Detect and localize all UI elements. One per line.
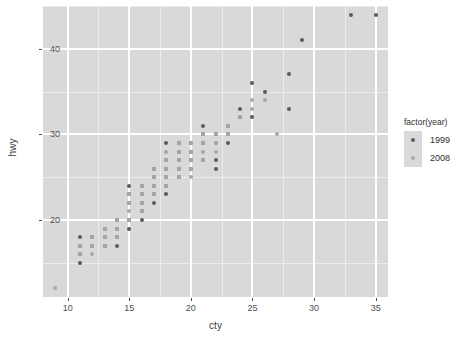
legend: factor(year) 19992008 bbox=[404, 117, 468, 167]
data-point bbox=[250, 98, 254, 102]
data-point bbox=[250, 81, 254, 85]
data-point bbox=[115, 244, 119, 248]
y-axis-title: hwy bbox=[7, 118, 18, 178]
data-point bbox=[78, 244, 82, 248]
data-point bbox=[152, 184, 156, 188]
data-point bbox=[214, 141, 218, 145]
data-point bbox=[214, 158, 218, 162]
data-point bbox=[103, 244, 107, 248]
data-point bbox=[152, 201, 156, 205]
data-point bbox=[201, 150, 205, 154]
data-point bbox=[115, 235, 119, 239]
data-point bbox=[140, 192, 144, 196]
scatter-plot-figure: cty hwy factor(year) 19992008 1015202530… bbox=[0, 0, 468, 351]
legend-item[interactable]: 1999 bbox=[404, 131, 468, 149]
y-tick-mark bbox=[39, 134, 42, 135]
data-point bbox=[152, 192, 156, 196]
legend-point-icon bbox=[411, 138, 415, 142]
data-point bbox=[263, 98, 267, 102]
x-tick-mark bbox=[376, 298, 377, 301]
x-tick-mark bbox=[191, 298, 192, 301]
data-point bbox=[226, 141, 230, 145]
legend-item-label: 1999 bbox=[430, 135, 450, 145]
x-tick-label: 20 bbox=[186, 303, 196, 313]
data-point bbox=[103, 235, 107, 239]
x-tick-label: 25 bbox=[247, 303, 257, 313]
data-point bbox=[164, 158, 168, 162]
data-point bbox=[164, 167, 168, 171]
data-point bbox=[189, 150, 193, 154]
x-tick-label: 35 bbox=[371, 303, 381, 313]
data-point bbox=[287, 107, 291, 111]
gridline-y-major bbox=[43, 219, 388, 221]
data-point bbox=[214, 132, 218, 136]
data-point bbox=[189, 141, 193, 145]
data-point bbox=[263, 90, 267, 94]
legend-title: factor(year) bbox=[404, 117, 468, 127]
data-point bbox=[226, 124, 230, 128]
data-point bbox=[189, 175, 193, 179]
data-point bbox=[78, 261, 82, 265]
data-point bbox=[140, 218, 144, 222]
data-point bbox=[90, 244, 94, 248]
legend-point-icon bbox=[411, 156, 415, 160]
data-point bbox=[201, 132, 205, 136]
gridline-y-minor bbox=[43, 263, 388, 264]
data-point bbox=[127, 218, 131, 222]
y-tick-label: 30 bbox=[50, 129, 60, 139]
y-tick-label: 20 bbox=[50, 215, 60, 225]
data-point bbox=[127, 192, 131, 196]
y-tick-label: 40 bbox=[50, 44, 60, 54]
data-point bbox=[164, 175, 168, 179]
x-tick-label: 30 bbox=[309, 303, 319, 313]
data-point bbox=[300, 38, 304, 42]
data-point bbox=[201, 141, 205, 145]
legend-key-swatch bbox=[404, 149, 422, 167]
data-point bbox=[177, 150, 181, 154]
data-point bbox=[226, 132, 230, 136]
data-point bbox=[177, 141, 181, 145]
data-point bbox=[140, 209, 144, 213]
data-point bbox=[152, 167, 156, 171]
data-point bbox=[127, 209, 131, 213]
data-point bbox=[140, 184, 144, 188]
data-point bbox=[140, 201, 144, 205]
y-tick-mark bbox=[39, 220, 42, 221]
y-tick-mark bbox=[39, 49, 42, 50]
data-point bbox=[103, 227, 107, 231]
data-point bbox=[90, 252, 94, 256]
data-point bbox=[164, 150, 168, 154]
legend-item[interactable]: 2008 bbox=[404, 149, 468, 167]
legend-key-swatch bbox=[404, 131, 422, 149]
data-point bbox=[127, 201, 131, 205]
data-point bbox=[349, 13, 353, 17]
data-point bbox=[127, 184, 131, 188]
gridline-y-minor bbox=[43, 92, 388, 93]
data-point bbox=[78, 252, 82, 256]
x-tick-mark bbox=[68, 298, 69, 301]
gridline-y-minor bbox=[43, 6, 388, 7]
data-point bbox=[177, 167, 181, 171]
x-tick-label: 15 bbox=[124, 303, 134, 313]
plot-panel bbox=[43, 6, 388, 297]
data-point bbox=[201, 158, 205, 162]
data-point bbox=[164, 184, 168, 188]
data-point bbox=[374, 13, 378, 17]
data-point bbox=[177, 158, 181, 162]
x-tick-mark bbox=[129, 298, 130, 301]
data-point bbox=[250, 107, 254, 111]
data-point bbox=[214, 150, 218, 154]
data-point bbox=[275, 132, 279, 136]
data-point bbox=[127, 227, 131, 231]
data-point bbox=[189, 167, 193, 171]
data-point bbox=[78, 235, 82, 239]
gridline-y-major bbox=[43, 48, 388, 50]
legend-item-label: 2008 bbox=[430, 153, 450, 163]
gridline-y-minor bbox=[43, 177, 388, 178]
legend-items: 19992008 bbox=[404, 131, 468, 167]
x-axis-title: cty bbox=[43, 320, 388, 331]
data-point bbox=[250, 115, 254, 119]
data-point bbox=[115, 218, 119, 222]
x-tick-mark bbox=[252, 298, 253, 301]
data-point bbox=[152, 175, 156, 179]
